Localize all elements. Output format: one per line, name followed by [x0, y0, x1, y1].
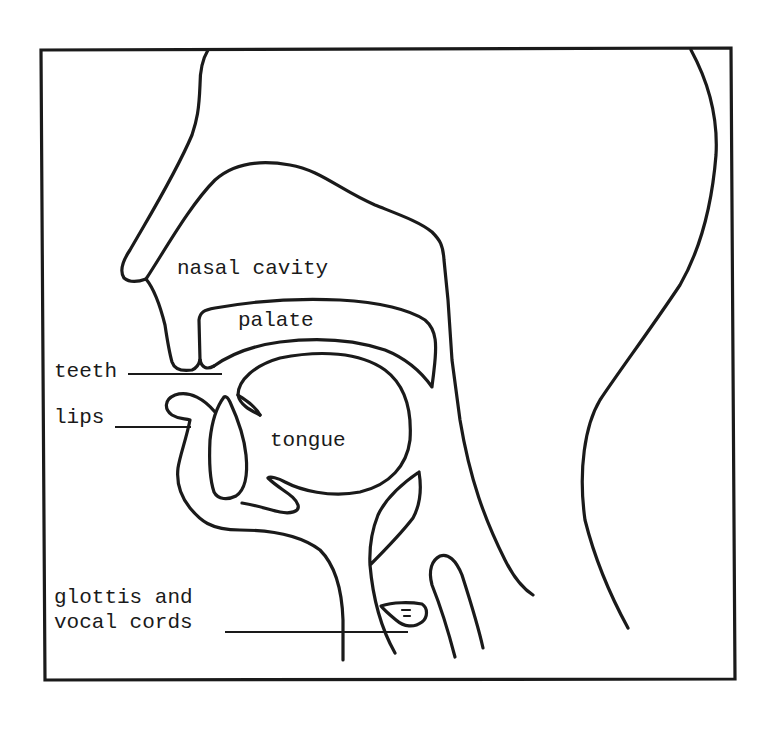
palate-outline [199, 299, 436, 387]
nose-outline [122, 50, 208, 370]
label-tongue: tongue [270, 429, 346, 452]
label-glottis-line1: glottis and [54, 586, 193, 609]
nasal-cavity-outline [146, 163, 533, 595]
label-nasal-cavity: nasal cavity [177, 257, 328, 280]
larynx-back-outline [430, 555, 483, 657]
lower-teeth-outline [210, 397, 247, 499]
vocal-tract-diagram: nasal cavity palate teeth lips tongue gl… [0, 0, 781, 735]
head-neck-outline [582, 50, 716, 628]
label-lips: lips [54, 406, 104, 429]
tongue-tip [238, 395, 260, 415]
glottis-outline [381, 603, 427, 626]
label-palate: palate [238, 309, 314, 332]
label-teeth: teeth [54, 360, 117, 383]
vocal-cords-mark [402, 610, 410, 616]
teeth-outline [200, 360, 214, 368]
label-glottis-line2: vocal cords [54, 611, 193, 634]
